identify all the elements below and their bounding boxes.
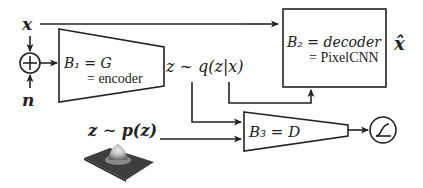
discriminator-block: B₃ = D [244, 112, 348, 151]
input-x-label: x [21, 14, 33, 34]
decoder-label-line1: B₂ = decoder [286, 34, 382, 50]
sigmoid-circle [370, 117, 396, 143]
posterior-label: z ∼ q(z|x) [165, 57, 244, 76]
sigmoid-node [370, 117, 396, 143]
output-xhat-label: x̂ [393, 33, 405, 54]
latent-to-discriminator-arrow [192, 82, 241, 122]
gaussian-surface-icon [84, 144, 154, 182]
vae-gan-diagram: x n B₁ = G = encoder z ∼ q(z|x) B₂ = dec… [0, 0, 423, 188]
decoder-block: B₂ = decoder = PixelCNN [283, 9, 386, 87]
encoder-label-line2: = encoder [87, 71, 143, 86]
discriminator-label: B₃ = D [248, 123, 300, 141]
sum-node [20, 53, 40, 73]
prior-label: z ∼ p(z) [87, 121, 157, 140]
encoder-block: B₁ = G = encoder [59, 29, 164, 102]
input-n-label: n [22, 90, 34, 110]
decoder-label-line2: = PixelCNN [309, 50, 379, 65]
gaussian-peak [108, 144, 128, 160]
encoder-label-line1: B₁ = G [63, 55, 112, 71]
